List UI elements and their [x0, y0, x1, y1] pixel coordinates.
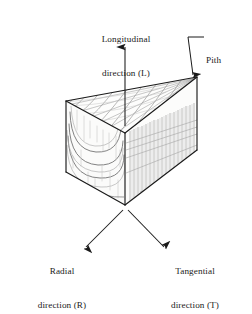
label-tangential-direction: Tangential direction (T) — [140, 243, 250, 314]
label-longitudinal-line2: direction (L) — [62, 68, 190, 79]
label-pith-line1: Pith — [206, 55, 248, 66]
tangential-arrow — [128, 210, 164, 247]
pith-leader — [188, 37, 204, 75]
label-tangential-line1: Tangential — [140, 266, 250, 277]
label-longitudinal-direction: Longitudinal direction (L) — [62, 11, 190, 102]
label-pith: Pith — [206, 32, 248, 89]
label-radial-line1: Radial — [8, 266, 116, 277]
label-longitudinal-line1: Longitudinal — [62, 34, 190, 45]
radial-arrow — [86, 210, 123, 247]
label-radial-direction: Radial direction (R) — [8, 243, 116, 314]
label-radial-line2: direction (R) — [8, 300, 116, 311]
label-tangential-line2: direction (T) — [140, 300, 250, 311]
